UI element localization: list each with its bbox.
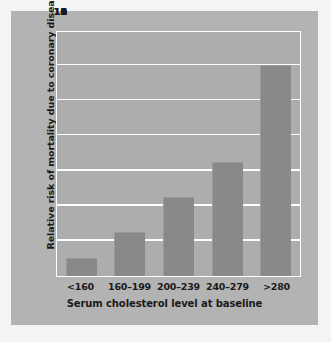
bar-slot	[106, 32, 155, 276]
x-axis-title: Serum cholesterol level at baseline	[11, 298, 318, 309]
bar-slot	[57, 32, 106, 276]
bar[interactable]	[66, 258, 97, 276]
chart-figure: Relative risk of mortality due to corona…	[0, 0, 331, 342]
bar[interactable]	[163, 197, 194, 276]
plot-area	[56, 31, 301, 277]
bar[interactable]	[114, 232, 145, 276]
x-axis-ticks: <160160–199200–239240–279>280	[56, 281, 301, 292]
x-axis-tick-label: 240–279	[203, 281, 252, 292]
bar[interactable]	[212, 162, 243, 276]
x-axis-tick-label: 160–199	[105, 281, 154, 292]
y-axis-tick-label: 14	[37, 6, 67, 17]
chart-panel: Relative risk of mortality due to corona…	[11, 11, 318, 325]
bar-slot	[154, 32, 203, 276]
bar-slot	[251, 32, 300, 276]
x-axis-tick-label: 200–239	[154, 281, 203, 292]
x-axis-tick-label: >280	[252, 281, 301, 292]
y-axis-title: Relative risk of mortality due to corona…	[45, 0, 56, 250]
x-axis-tick-label: <160	[56, 281, 105, 292]
bar-series	[57, 32, 300, 276]
bar-slot	[203, 32, 252, 276]
bar[interactable]	[260, 65, 291, 276]
